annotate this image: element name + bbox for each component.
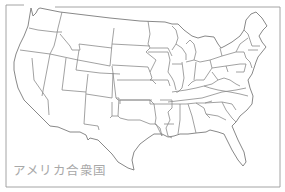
state-borders-great-lakes <box>168 26 246 102</box>
map-title: アメリカ合衆国 <box>13 160 107 179</box>
state-borders-west <box>20 12 156 130</box>
us-outline <box>14 8 267 170</box>
state-borders-south <box>118 100 174 138</box>
